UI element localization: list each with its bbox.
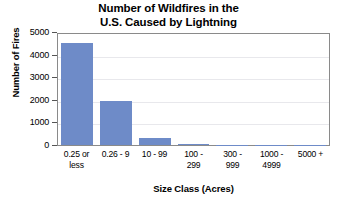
x-tick-label-line: 100 - [174, 149, 213, 160]
bar-100-299 [178, 144, 210, 145]
x-tick-4: 300 - 999 [213, 149, 252, 181]
y-tick-label: 5000 [30, 27, 49, 37]
bar-slot [97, 34, 136, 145]
x-tick-label-line: 299 [174, 160, 213, 171]
bar-slot [135, 34, 174, 145]
x-tick-label-line: less [57, 160, 96, 171]
x-axis-ticks: 0.25 or less 0.26 - 9 10 - 99 100 - 299 … [57, 149, 330, 181]
y-tick-label: 4000 [30, 50, 49, 60]
y-tick-label: 2000 [30, 95, 49, 105]
bar-0.25-or-less [61, 43, 93, 145]
bar-slot [252, 34, 291, 145]
y-tick-label: 0 [44, 140, 49, 150]
bar-10-99 [139, 138, 171, 145]
x-tick-label-line: 999 [213, 160, 252, 171]
x-axis-title: Size Class (Acres) [57, 183, 330, 194]
x-tick-label-line: 10 - 99 [135, 149, 174, 160]
plot-area [57, 33, 330, 146]
bar-0.26-9 [100, 101, 132, 145]
y-tick-label: 1000 [30, 117, 49, 127]
x-tick-2: 10 - 99 [135, 149, 174, 181]
y-axis-ticks: 0 1000 2000 3000 4000 5000 [0, 33, 57, 146]
x-tick-label-line: 1000 - [252, 149, 291, 160]
x-tick-label-line: 4999 [252, 160, 291, 171]
wildfires-bar-chart: Number of Wildfires in the U.S. Caused b… [0, 0, 337, 201]
bar-slot [213, 34, 252, 145]
chart-title-line-2: U.S. Caused by Lightning [0, 16, 337, 30]
bar-slot [58, 34, 97, 145]
x-tick-3: 100 - 299 [174, 149, 213, 181]
y-tick-label: 3000 [30, 72, 49, 82]
bar-slot [174, 34, 213, 145]
bars-layer [58, 34, 329, 145]
chart-title-line-1: Number of Wildfires in the [0, 2, 337, 16]
x-tick-5: 1000 - 4999 [252, 149, 291, 181]
x-tick-0: 0.25 or less [57, 149, 96, 181]
x-tick-label-line: 300 - [213, 149, 252, 160]
bar-slot [290, 34, 329, 145]
x-tick-1: 0.26 - 9 [96, 149, 135, 181]
x-tick-label-line: 0.26 - 9 [96, 149, 135, 160]
x-tick-label-line: 0.25 or [57, 149, 96, 160]
x-tick-label-line: 5000 + [291, 149, 330, 160]
chart-title: Number of Wildfires in the U.S. Caused b… [0, 2, 337, 29]
x-tick-6: 5000 + [291, 149, 330, 181]
